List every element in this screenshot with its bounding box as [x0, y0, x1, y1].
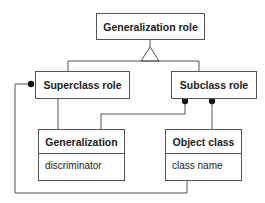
generalization-class-title: Generalization — [45, 136, 117, 148]
generalization-class-box: Generalization discriminator — [38, 129, 125, 181]
generalization-attribute: discriminator — [39, 154, 124, 171]
superclass-role-title: Superclass role — [43, 79, 121, 91]
generalization-role-title: Generalization role — [103, 21, 198, 33]
subclass-role-box: Subclass role — [171, 71, 257, 99]
object-class-title: Object class — [173, 136, 235, 148]
subclass-role-title: Subclass role — [180, 79, 248, 91]
object-class-attribute: class name — [166, 154, 241, 171]
object-class-box: Object class class name — [165, 129, 242, 181]
superclass-role-box: Superclass role — [35, 71, 130, 99]
generalization-role-box: Generalization role — [96, 13, 205, 40]
multiplicity-dot-superclass — [28, 81, 34, 87]
